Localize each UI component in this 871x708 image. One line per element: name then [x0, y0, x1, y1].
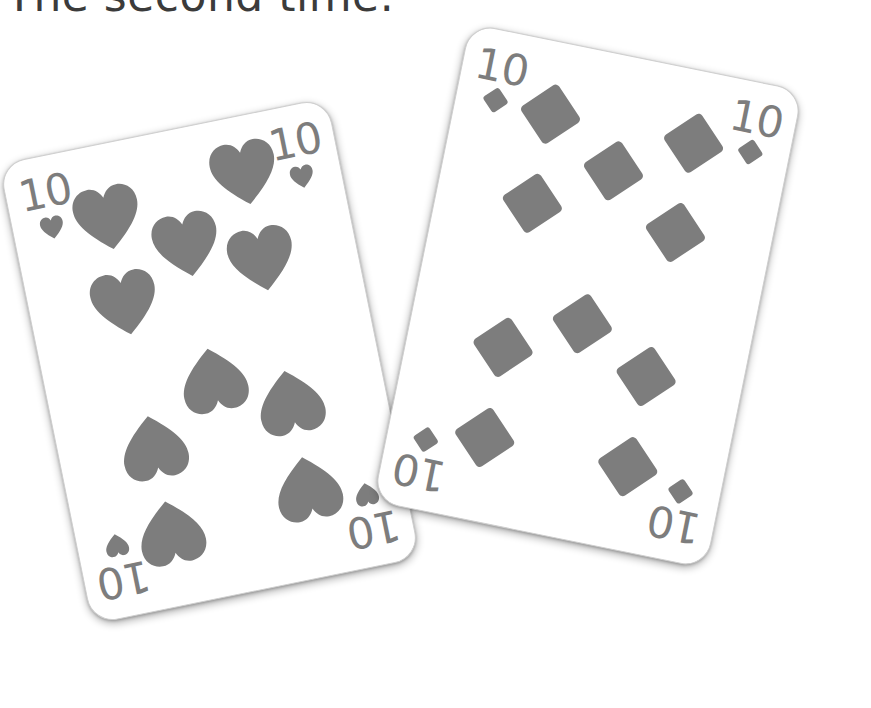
diamond-pip [506, 177, 559, 234]
heart-icon [288, 163, 317, 194]
heart-pip [268, 447, 349, 531]
heart-pip [173, 339, 254, 423]
diamond-pip [666, 116, 719, 173]
corner-rank-label: 10 [390, 447, 450, 498]
pip-field-diamonds [440, 62, 736, 530]
heart-pip [114, 406, 195, 490]
heart-pip [85, 264, 166, 348]
heart-icon [38, 213, 67, 244]
heart-pip [146, 205, 227, 289]
playing-card-ten-of-diamonds[interactable]: 10 10 10 10 [373, 23, 803, 569]
diamond-pip [601, 440, 654, 497]
heart-pip [250, 362, 331, 446]
diamond-icon [670, 478, 693, 503]
pip-field-hearts [66, 136, 354, 585]
diamond-pip [476, 321, 529, 378]
caption-crop: The second time. [0, 0, 871, 19]
heart-icon [102, 528, 131, 559]
diamond-icon [484, 89, 507, 114]
diamond-pip [586, 144, 639, 201]
heart-pip [221, 219, 302, 303]
playing-card-ten-of-hearts[interactable]: 10 10 10 10 [0, 97, 420, 624]
corner-rank-label: 10 [344, 504, 404, 555]
heart-pip [132, 492, 213, 576]
diamond-pip [619, 350, 672, 407]
diamond-pip [555, 297, 608, 354]
diamond-icon [415, 426, 438, 451]
card-scene: The second time. 10 10 10 10 10 10 [0, 0, 871, 708]
heart-pip [68, 178, 149, 262]
caption-text: The second time. [6, 0, 394, 19]
diamond-pip [458, 411, 511, 468]
diamond-pip [648, 206, 701, 263]
diamond-icon [738, 141, 761, 166]
corner-rank-label: 10 [727, 94, 787, 145]
heart-pip [204, 134, 285, 218]
diamond-pip [524, 87, 577, 144]
corner-rank-label: 10 [15, 168, 75, 219]
